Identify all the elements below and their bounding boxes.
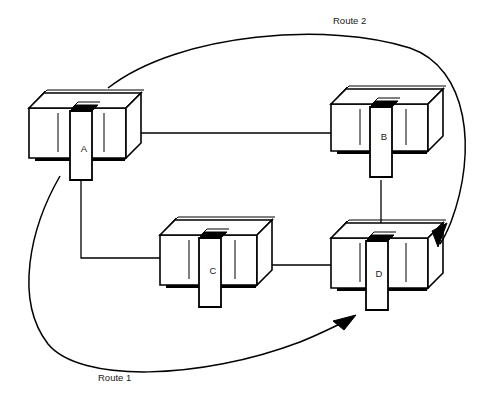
node-c[interactable]: C — [160, 217, 275, 307]
node-a-label: A — [81, 143, 88, 154]
route-1-arrowhead — [333, 315, 356, 330]
node-d[interactable]: D — [331, 220, 446, 310]
route-1-label: Route 1 — [98, 372, 131, 383]
node-c-label: C — [210, 265, 217, 276]
node-b-module-face — [370, 107, 392, 177]
node-b[interactable]: B — [331, 86, 446, 177]
diagram-canvas: A B — [0, 0, 494, 415]
node-d-label: D — [376, 268, 383, 279]
network-diagram: A B — [0, 0, 494, 415]
node-a[interactable]: A — [29, 90, 144, 180]
route-2-label: Route 2 — [333, 15, 366, 26]
link-a-c — [81, 180, 165, 258]
node-b-label: B — [381, 131, 387, 142]
